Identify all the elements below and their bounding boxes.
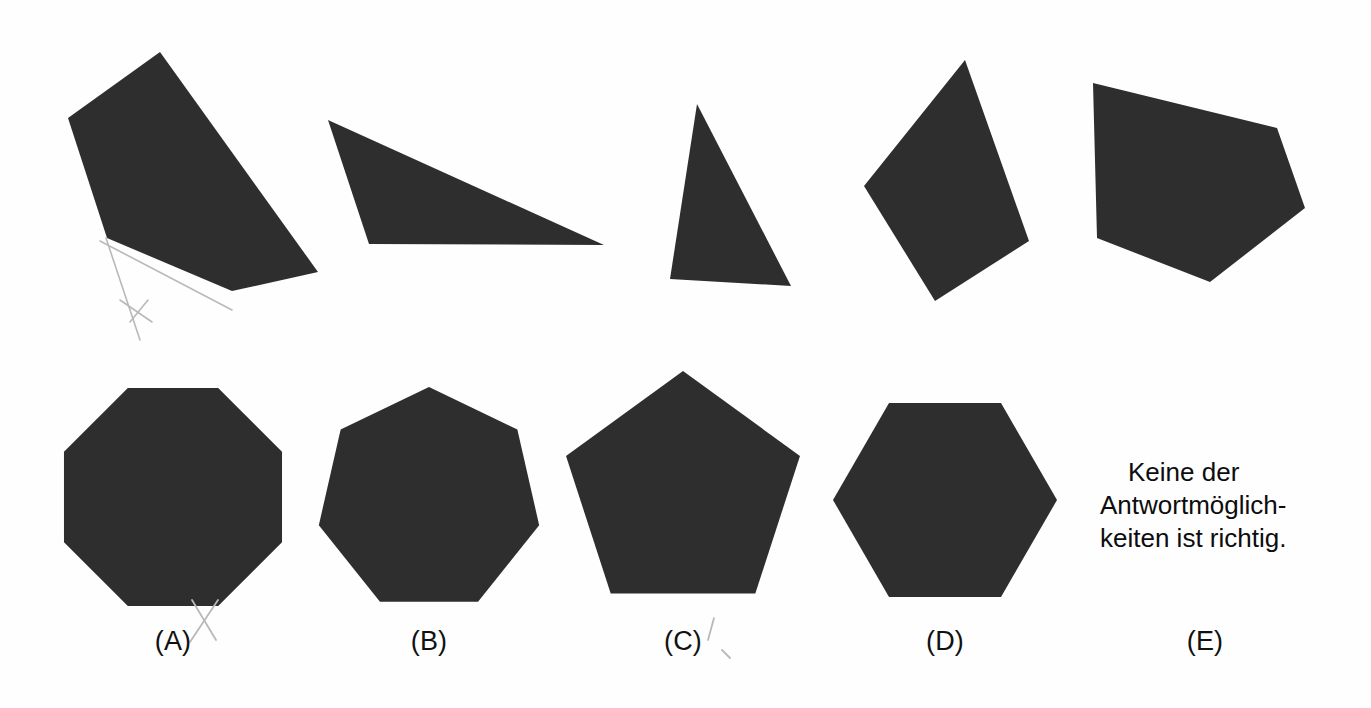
none-text-line-2: Antwortmöglich-: [1100, 489, 1330, 522]
option-label-b[interactable]: (B): [411, 626, 448, 657]
answer-pencil-marks-group: [190, 600, 730, 658]
pencil-line-4: [130, 300, 148, 322]
question-shapes-group: [68, 52, 1305, 301]
none-text-line-1: Keine der: [1100, 456, 1330, 489]
shape-canvas: [0, 0, 1371, 708]
prompt-shape-2: [328, 120, 604, 245]
pencil-line-3: [120, 300, 152, 322]
pencil-tick-c-2: [722, 650, 730, 658]
answer-shape-a[interactable]: [64, 388, 282, 606]
none-of-the-above-text: Keine der Antwortmöglich- keiten ist ric…: [1100, 456, 1330, 555]
option-label-a[interactable]: (A): [155, 626, 192, 657]
answer-shape-c[interactable]: [566, 371, 800, 594]
prompt-shape-3: [670, 104, 791, 286]
prompt-shape-5: [1093, 83, 1305, 282]
pencil-tick-c-1: [708, 618, 714, 640]
answer-shape-b[interactable]: [319, 387, 539, 602]
prompt-shape-4: [864, 60, 1029, 301]
option-label-e[interactable]: (E): [1187, 626, 1224, 657]
none-text-line-3: keiten ist richtig.: [1100, 522, 1330, 555]
answer-shape-d[interactable]: [833, 403, 1057, 597]
worksheet-page: (A)(B)(C)(D)(E) Keine der Antwortmöglich…: [0, 0, 1371, 708]
answer-shapes-group: [64, 371, 1057, 606]
prompt-shape-1: [68, 52, 318, 291]
option-label-d[interactable]: (D): [926, 626, 964, 657]
option-label-c[interactable]: (C): [664, 626, 702, 657]
